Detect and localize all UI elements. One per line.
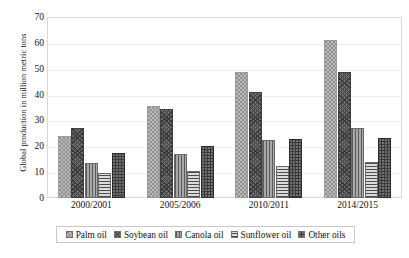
y-axis-tick-label: 0 [0,193,44,203]
bar-palm-oil[interactable] [324,40,337,198]
legend-item-soybean-oil[interactable]: Soybean oil [114,230,168,240]
bar-sunflower-oil[interactable] [187,171,200,198]
bar-canola-oil[interactable] [174,154,187,198]
legend-swatch-horizontal-icon [231,231,238,238]
legend-label: Canola oil [185,230,223,240]
x-axis-tick-label: 2014/2015 [313,200,402,210]
x-axis-tick-label: 2010/2011 [225,200,314,210]
bar-chart: Global production in million metric tons… [0,0,409,258]
bar-palm-oil[interactable] [235,72,248,198]
y-axis-tick-label: 60 [0,38,44,48]
bar-soybean-oil[interactable] [71,128,84,198]
legend-label: Sunflower oil [241,230,292,240]
bar-sunflower-oil[interactable] [276,166,289,198]
y-axis-tick-label: 70 [0,12,44,22]
legend-item-sunflower-oil[interactable]: Sunflower oil [231,230,292,240]
bar-other-oils[interactable] [378,138,391,198]
legend-swatch-dotted-icon [66,231,73,238]
bar-palm-oil[interactable] [147,106,160,198]
bar-group [324,17,391,198]
bar-other-oils[interactable] [201,146,214,198]
legend-label: Palm oil [76,230,107,240]
x-axis-tick-labels: 2000/20012005/20062010/20112014/2015 [47,200,402,216]
bar-soybean-oil[interactable] [338,72,351,198]
y-axis-tick-label: 50 [0,64,44,74]
legend-label: Soybean oil [124,230,168,240]
bar-sunflower-oil[interactable] [98,173,111,198]
legend-swatch-vertical-icon [175,231,182,238]
bar-soybean-oil[interactable] [249,92,262,198]
x-axis-tick-label: 2005/2006 [136,200,225,210]
y-axis-tick-label: 20 [0,141,44,151]
legend-swatch-solid-icon [298,231,305,238]
bar-other-oils[interactable] [112,153,125,198]
x-axis-tick-label: 2000/2001 [47,200,136,210]
bar-canola-oil[interactable] [262,140,275,198]
bar-soybean-oil[interactable] [160,109,173,198]
y-axis-tick-label: 30 [0,115,44,125]
bar-palm-oil[interactable] [58,136,71,198]
bar-group [235,17,302,198]
legend-label: Other oils [308,230,345,240]
bar-canola-oil[interactable] [351,128,364,198]
legend-swatch-crosshatch-icon [114,231,121,238]
y-axis-tick-label: 40 [0,90,44,100]
chart-legend: Palm oilSoybean oilCanola oilSunflower o… [56,226,355,243]
bar-group [58,17,125,198]
bar-other-oils[interactable] [289,139,302,198]
y-axis-tick-label: 10 [0,167,44,177]
legend-item-other-oils[interactable]: Other oils [298,230,345,240]
bar-sunflower-oil[interactable] [365,162,378,198]
bar-group [147,17,214,198]
legend-item-palm-oil[interactable]: Palm oil [66,230,107,240]
bars-layer [47,17,402,198]
legend-item-canola-oil[interactable]: Canola oil [175,230,223,240]
bar-canola-oil[interactable] [85,163,98,198]
